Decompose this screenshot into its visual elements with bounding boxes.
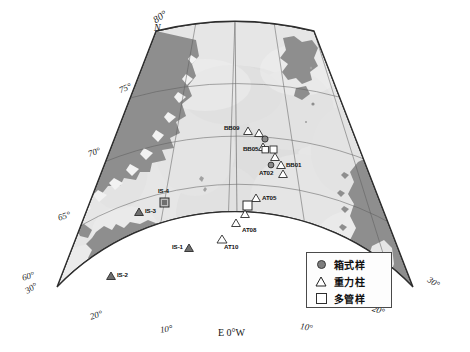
marker-is2-triangle[interactable] bbox=[107, 272, 116, 280]
marker-bb-sq1[interactable] bbox=[262, 147, 268, 153]
map-body bbox=[0, 0, 470, 352]
legend-item-box-sample[interactable]: 箱式样 bbox=[313, 256, 391, 273]
legend-item-gravity-core[interactable]: 重力柱 bbox=[313, 273, 391, 290]
marker-is1-triangle[interactable] bbox=[185, 244, 194, 252]
open-square-icon bbox=[313, 292, 329, 306]
legend-item-multi-tube[interactable]: 多管样 bbox=[313, 290, 391, 307]
marker-bb-box1[interactable] bbox=[262, 136, 268, 142]
bear-island bbox=[311, 102, 314, 105]
filled-circle-icon bbox=[313, 258, 329, 272]
legend-label-box-sample: 箱式样 bbox=[334, 257, 365, 272]
marker-is4-inner bbox=[162, 200, 167, 205]
map-figure: 80° N 75° 70° 65° 60° 30° 20° 10° E 0°W … bbox=[0, 0, 470, 352]
map-legend: 箱式样 重力柱 多管样 bbox=[306, 252, 392, 308]
map-canvas bbox=[0, 0, 470, 352]
marker-at08-triangle[interactable] bbox=[232, 219, 241, 227]
open-triangle-icon bbox=[313, 275, 329, 289]
marker-at-sq[interactable] bbox=[243, 201, 252, 210]
marker-bb05-sq2[interactable] bbox=[270, 146, 277, 153]
legend-label-multi-tube: 多管样 bbox=[334, 291, 365, 306]
marker-at10-triangle[interactable] bbox=[217, 235, 227, 243]
marker-bb-box2[interactable] bbox=[268, 162, 274, 168]
legend-label-gravity-core: 重力柱 bbox=[334, 274, 365, 289]
